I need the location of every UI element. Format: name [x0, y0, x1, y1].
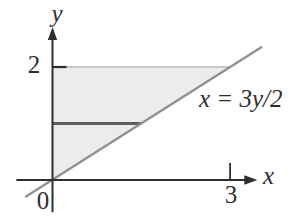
x-axis-arrowhead [244, 175, 257, 184]
equation-label: x = 3y/2 [198, 85, 283, 112]
origin-label: 0 [37, 187, 50, 214]
math-figure: y x 0 2 3 x = 3y/2 [0, 0, 288, 220]
y-tick-label: 2 [28, 51, 41, 78]
figure-canvas: y x 0 2 3 x = 3y/2 [0, 0, 288, 220]
y-axis-label: y [48, 0, 63, 27]
x-axis-label: x [262, 162, 274, 189]
x-tick-label: 3 [225, 181, 238, 208]
y-axis-arrowhead [48, 27, 57, 40]
